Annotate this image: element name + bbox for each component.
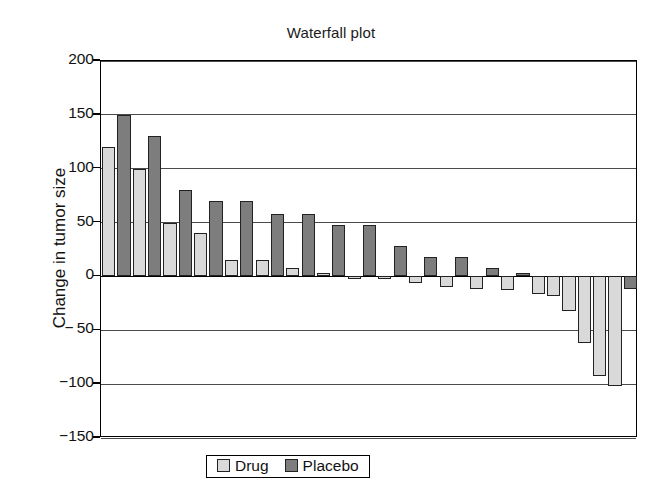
- bar-placebo: [624, 276, 637, 289]
- bar-placebo: [302, 214, 315, 276]
- y-axis-tick: [93, 59, 100, 61]
- legend-label-drug: Drug: [235, 458, 269, 474]
- bar-placebo: [332, 225, 345, 277]
- bar-placebo: [516, 273, 529, 276]
- chart-legend: Drug Placebo: [206, 455, 370, 478]
- bar-placebo: [117, 115, 130, 277]
- y-axis-tick-label: 150: [32, 104, 94, 122]
- bar-drug: [102, 147, 115, 276]
- bar-drug: [256, 260, 269, 276]
- bar-drug: [547, 276, 560, 295]
- bar-drug: [608, 276, 621, 386]
- y-axis-tick: [93, 221, 100, 223]
- bar-drug: [409, 276, 422, 282]
- legend-swatch-placebo-icon: [285, 459, 298, 472]
- legend-item-drug: Drug: [217, 458, 269, 474]
- y-axis-tick: [93, 329, 100, 331]
- gridline: [101, 438, 636, 439]
- bar-placebo: [455, 257, 468, 276]
- bar-placebo: [363, 225, 376, 277]
- legend-swatch-drug-icon: [217, 459, 230, 472]
- bar-placebo: [271, 214, 284, 276]
- bar-placebo: [209, 201, 222, 276]
- bar-drug: [470, 276, 483, 289]
- y-axis-tick-label: 0: [32, 265, 94, 283]
- legend-item-placebo: Placebo: [285, 458, 359, 474]
- bar-placebo: [179, 190, 192, 276]
- y-axis-tick: [93, 167, 100, 169]
- y-axis-tick-label: −100: [32, 373, 94, 391]
- y-axis-label: Change in tumor size: [50, 78, 70, 418]
- bar-placebo: [424, 257, 437, 276]
- bar-drug: [532, 276, 545, 293]
- bar-drug: [317, 273, 330, 276]
- y-axis-tick-label: 200: [32, 50, 94, 68]
- chart-title: Waterfall plot: [0, 24, 662, 41]
- y-axis-tick: [93, 436, 100, 438]
- bar-drug: [348, 276, 361, 278]
- bar-placebo: [486, 268, 499, 277]
- legend-label-placebo: Placebo: [303, 458, 359, 474]
- y-axis-tick: [93, 382, 100, 384]
- plot-area: [100, 60, 637, 437]
- bar-drug: [440, 276, 453, 287]
- y-axis-tick: [93, 113, 100, 115]
- bar-drug: [286, 268, 299, 277]
- bar-placebo: [394, 246, 407, 276]
- y-axis-tick-label: −150: [32, 427, 94, 445]
- bar-drug: [593, 276, 606, 375]
- bar-drug: [225, 260, 238, 276]
- bar-drug: [501, 276, 514, 290]
- bar-drug: [378, 276, 391, 278]
- bar-placebo: [240, 201, 253, 276]
- bar-drug: [578, 276, 591, 343]
- y-axis-tick-label: 50: [32, 212, 94, 230]
- bar-drug: [194, 233, 207, 276]
- bar-placebo: [148, 136, 161, 276]
- bar-drug: [163, 223, 176, 277]
- bar-drug: [562, 276, 575, 310]
- bar-drug: [133, 169, 146, 277]
- waterfall-plot-figure: Waterfall plot Change in tumor size 2001…: [0, 0, 662, 497]
- y-axis-tick-label: − 50: [32, 319, 94, 337]
- y-axis-tick-label: 100: [32, 158, 94, 176]
- y-axis-tick: [93, 275, 100, 277]
- bar-series: [101, 61, 636, 436]
